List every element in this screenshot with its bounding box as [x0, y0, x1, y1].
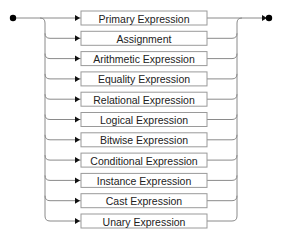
choice-label: Relational Expression [93, 94, 195, 106]
choice-label: Instance Expression [97, 175, 192, 187]
choice-item: Unary Expression [75, 214, 207, 228]
arrow-right-icon [75, 35, 80, 41]
branch-out [207, 196, 237, 201]
arrow-right-icon [75, 137, 80, 143]
choice-item: Cast Expression [75, 194, 207, 208]
choice-label: Unary Expression [103, 216, 186, 228]
choice-label: Conditional Expression [90, 155, 198, 167]
branch-out [207, 33, 237, 38]
arrow-right-icon [75, 96, 80, 102]
branch-out [207, 115, 237, 120]
choice-label: Primary Expression [98, 13, 189, 25]
branch-out [207, 216, 237, 221]
arrow-right-icon [75, 157, 80, 163]
choice-label: Arithmetic Expression [93, 53, 195, 65]
branch-out [207, 155, 237, 160]
branch-out [207, 74, 237, 79]
left-rail [40, 18, 45, 216]
arrow-right-icon [75, 76, 80, 82]
choice-label: Cast Expression [106, 195, 183, 207]
arrow-right-icon [75, 198, 80, 204]
arrow-right-icon [75, 117, 80, 123]
choice-label: Logical Expression [100, 114, 188, 126]
start-dot-icon [10, 15, 16, 21]
arrow-right-icon [75, 177, 80, 183]
choice-label: Bitwise Expression [100, 134, 188, 146]
arrow-right-icon [75, 56, 80, 62]
choice-item: Bitwise Expression [75, 133, 207, 147]
choice-list: Primary ExpressionAssignmentArithmetic E… [75, 11, 207, 228]
choice-item: Instance Expression [75, 173, 207, 187]
right-rail [237, 18, 242, 216]
choice-item: Equality Expression [75, 72, 207, 86]
railroad-diagram: Primary ExpressionAssignmentArithmetic E… [0, 0, 294, 245]
choice-label: Assignment [117, 33, 172, 45]
branch-out [207, 54, 237, 59]
branch-out [207, 94, 237, 99]
arrow-right-icon [75, 218, 80, 224]
arrow-right-icon [75, 15, 80, 21]
choice-item: Assignment [75, 31, 207, 45]
branch-out [207, 135, 237, 140]
choice-label: Equality Expression [98, 73, 190, 85]
end-marker-icon [262, 15, 272, 21]
branch-out [207, 175, 237, 180]
choice-item: Primary Expression [75, 11, 207, 25]
choice-item: Logical Expression [75, 113, 207, 127]
choice-item: Relational Expression [75, 92, 207, 106]
choice-item: Arithmetic Expression [75, 52, 207, 66]
choice-item: Conditional Expression [75, 153, 207, 167]
